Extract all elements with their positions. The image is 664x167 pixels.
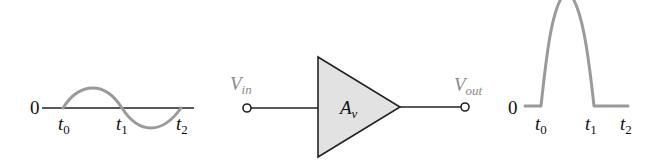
input-tick-t2: t2 (176, 114, 188, 133)
output-terminal (461, 103, 469, 111)
diagram-graphics (0, 0, 664, 167)
input-terminal (243, 104, 251, 112)
tick-sub: 0 (63, 122, 70, 137)
tick-sub: 1 (121, 122, 128, 137)
output-tick-t0: t0 (535, 114, 547, 133)
vin-label: Vin (230, 74, 252, 93)
vin-base: V (230, 73, 242, 94)
vout-label: Vout (454, 75, 482, 94)
output-zero-label: 0 (508, 98, 518, 117)
vout-base: V (454, 74, 466, 95)
input-tick-t0: t0 (58, 114, 70, 133)
gain-sub: v (352, 106, 358, 121)
vin-sub: in (242, 82, 252, 97)
amplifier-triangle (318, 57, 400, 157)
input-tick-t1: t1 (116, 114, 128, 133)
output-tick-t2: t2 (620, 114, 632, 133)
tick-sub: 1 (590, 122, 597, 137)
tick-sub: 0 (540, 122, 547, 137)
output-half-wave (525, 0, 628, 106)
output-tick-t1: t1 (585, 114, 597, 133)
tick-sub: 2 (181, 122, 188, 137)
gain-base: A (340, 97, 352, 118)
vout-sub: out (466, 83, 483, 98)
input-zero-label: 0 (30, 98, 40, 117)
gain-label: Av (340, 98, 357, 117)
amplifier-diagram: 0 t0 t1 t2 Vin Av Vout 0 t0 t1 t2 (0, 0, 664, 167)
tick-sub: 2 (625, 122, 632, 137)
